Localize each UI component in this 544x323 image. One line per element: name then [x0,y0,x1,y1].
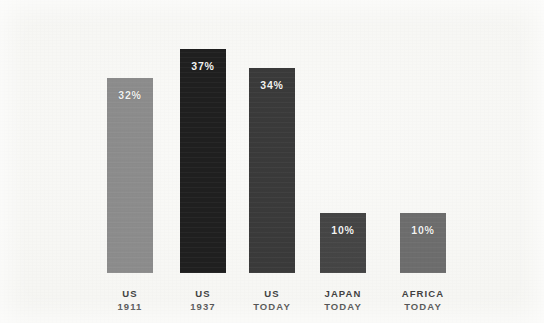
bar-value-label-us-1937: 37% [180,60,226,72]
bar-japan-today[interactable]: 10% [320,213,366,273]
bar-caption-line1-japan-today: JAPAN [298,287,388,300]
bar-chart-figure: 32% US 1911 37% US 1937 34% US TOD [0,0,544,323]
bar-caption-japan-today: JAPAN TODAY [298,287,388,313]
bar-caption-africa-today: AFRICA TODAY [378,287,468,313]
bar-us-today[interactable]: 34% [249,68,295,273]
bar-value-label-us-1911: 32% [107,89,153,101]
bar-value-label-japan-today: 10% [320,224,366,236]
bar-caption-line2-japan-today: TODAY [298,300,388,313]
bar-africa-today[interactable]: 10% [400,213,446,273]
plot-area: 32% US 1911 37% US 1937 34% US TOD [0,0,544,323]
bar-us-1937[interactable]: 37% [180,49,226,273]
bar-caption-line2-africa-today: TODAY [378,300,468,313]
bar-value-label-africa-today: 10% [400,224,446,236]
bar-us-1911[interactable]: 32% [107,78,153,273]
bar-value-label-us-today: 34% [249,79,295,91]
bar-caption-line1-africa-today: AFRICA [378,287,468,300]
